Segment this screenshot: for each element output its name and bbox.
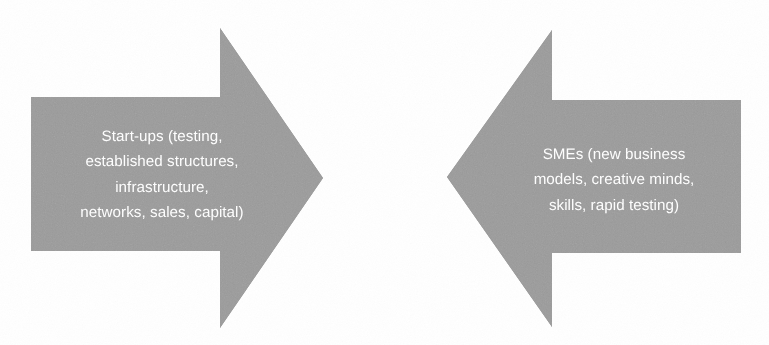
- diagram-canvas: Start-ups (testing, established structur…: [0, 0, 769, 345]
- left-arrow-label: Start-ups (testing, established structur…: [31, 124, 293, 226]
- right-arrow-label: SMEs (new business models, creative mind…: [487, 142, 741, 218]
